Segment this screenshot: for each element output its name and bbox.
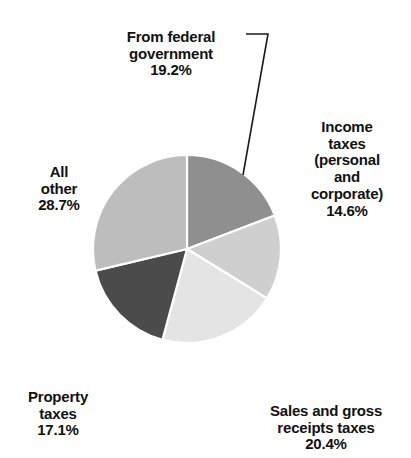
slice-label-income-taxes: Income taxes (personal and corporate) 14… xyxy=(286,102,408,236)
slice-label-federal-government-text: From federal government xyxy=(127,28,215,62)
slice-label-all-other: All other 28.7% xyxy=(16,147,102,231)
slice-label-federal-government: From federal government 19.2% xyxy=(96,12,246,96)
pie-slice-group xyxy=(93,155,281,343)
slice-value-all-other: 28.7% xyxy=(16,197,102,214)
pie-slice xyxy=(93,155,187,271)
slice-value-property-taxes: 17.1% xyxy=(4,422,112,439)
slice-label-sales-receipts-taxes-text: Sales and gross receipts taxes xyxy=(270,402,382,436)
slice-value-federal-government: 19.2% xyxy=(96,62,246,79)
slice-label-income-taxes-text: Income taxes (personal and corporate) xyxy=(311,118,383,202)
pie-chart: From federal government 19.2% Income tax… xyxy=(0,0,411,458)
leader-line-federal-government xyxy=(243,34,268,175)
slice-label-sales-receipts-taxes: Sales and gross receipts taxes 20.4% xyxy=(246,386,406,458)
slice-value-sales-receipts-taxes: 20.4% xyxy=(246,436,406,453)
slice-label-all-other-text: All other xyxy=(41,163,78,197)
slice-label-property-taxes-text: Property taxes xyxy=(28,388,88,422)
slice-value-income-taxes: 14.6% xyxy=(286,203,408,220)
slice-label-property-taxes: Property taxes 17.1% xyxy=(4,372,112,456)
